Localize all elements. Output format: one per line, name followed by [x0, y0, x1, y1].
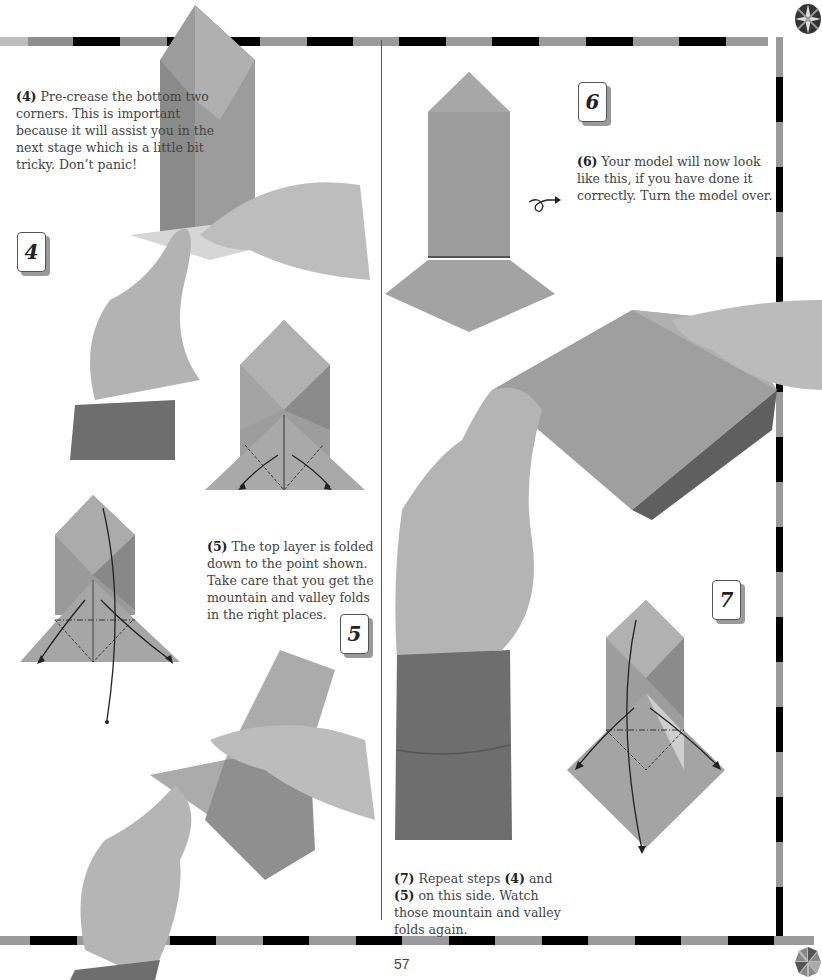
step-5-number-box: 5 [340, 614, 369, 654]
step-6-text: Your model will now look like this, if y… [577, 154, 772, 203]
step-5-caption: (5) The top layer is folded down to the … [207, 538, 377, 623]
step-7-ref-a: (4) [504, 871, 525, 886]
origami-rosette-icon [793, 2, 822, 36]
step-5-photo [65, 650, 385, 980]
step-4-diagram [200, 315, 380, 495]
step-4-text: Pre-crease the bottom two corners. This … [16, 89, 214, 172]
step-5-text: The top layer is folded down to the poin… [207, 539, 374, 622]
step-6-caption: (6) Your model will now look like this, … [577, 153, 777, 204]
step-4-number: 4 [25, 240, 39, 264]
step-7-caption: (7) Repeat steps (4) and (5) on this sid… [394, 870, 574, 938]
step-6-number-box: 6 [578, 82, 607, 122]
step-7-text-c: on this side. Watch those mountain and v… [394, 888, 561, 937]
step-6-number: 6 [586, 90, 600, 114]
step-4-label: (4) [16, 89, 37, 104]
page-number: 57 [394, 956, 410, 972]
step-7-diagram [560, 598, 740, 858]
step-5-number: 5 [348, 622, 362, 646]
step-7-label: (7) [394, 871, 415, 886]
step-4-number-box: 4 [17, 232, 46, 272]
turn-over-arrow-icon [527, 196, 563, 216]
step-7-text-b: and [525, 871, 552, 886]
step-5-label: (5) [207, 539, 228, 554]
step-7-text-a: Repeat steps [415, 871, 505, 886]
origami-rosette-icon [794, 946, 822, 978]
step-7-ref-b: (5) [394, 888, 415, 903]
step-4-caption: (4) Pre-crease the bottom two corners. T… [16, 88, 236, 173]
step-6-label: (6) [577, 154, 598, 169]
